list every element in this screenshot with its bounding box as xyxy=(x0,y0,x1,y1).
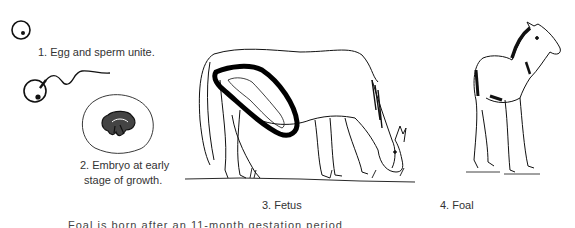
mare-with-fetus-illustration xyxy=(185,49,415,182)
egg-illustration xyxy=(12,21,30,39)
stage-3-label: 3. Fetus xyxy=(262,198,302,212)
stage-1-label: 1. Egg and sperm unite. xyxy=(38,45,155,59)
diagram-canvas xyxy=(0,0,575,228)
embryo-illustration xyxy=(82,95,153,154)
footer-caption-cut-off: Foal is born after an 11-month gestation… xyxy=(68,219,343,228)
stage-4-label: 4. Foal xyxy=(440,198,474,212)
egg-sperm-illustration xyxy=(24,71,110,102)
stage-2-label-line1: 2. Embryo at early xyxy=(80,158,169,172)
stage-2-label-line2: stage of growth. xyxy=(84,173,162,187)
foal-illustration xyxy=(466,22,560,174)
